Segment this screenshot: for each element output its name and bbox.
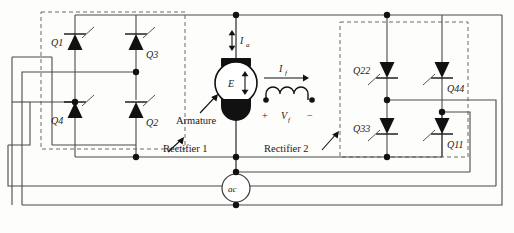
thyristor-q33-label: Q33 (353, 123, 370, 134)
field-plus-sign: + (262, 110, 268, 121)
armature-label: Armature (176, 115, 217, 126)
wire-left-loop-inner (8, 102, 30, 145)
field-terminal-right (309, 97, 315, 103)
node-rect2-top (384, 12, 390, 18)
ia-label-sub: a (246, 41, 250, 49)
commutator-brush-bottom (221, 99, 251, 121)
ia-arrow-head-up (229, 30, 236, 35)
thyristor-q33: Q33 (353, 118, 398, 141)
thyristor-q44-label: Q44 (447, 83, 464, 94)
thyristor-q3: Q3 (125, 27, 158, 60)
if-arrow-head (303, 75, 309, 82)
vf-label-sub: f (288, 116, 291, 124)
node-rect1-mid-right (133, 69, 139, 75)
field-winding-inductor (266, 87, 308, 100)
thyristor-q2-label: Q2 (146, 117, 158, 128)
circuit-diagram: E I a Armature I f + V f − ac (0, 0, 514, 233)
if-label-sub: f (285, 69, 288, 77)
ac-source-label: ac (228, 184, 237, 194)
thyristor-q11-label: Q11 (447, 139, 463, 150)
rectifier-1-boundary (41, 12, 185, 149)
schematic-canvas: E I a Armature I f + V f − ac (0, 0, 514, 233)
node-armature-bottom (233, 154, 239, 160)
rectifier-2-label: Rectifier 2 (264, 143, 309, 154)
thyristor-q2: Q2 (125, 95, 158, 128)
node-rect1-bottom-right (133, 154, 139, 160)
thyristor-q4-label: Q4 (51, 115, 63, 126)
thyristor-q4: Q4 (51, 95, 94, 126)
node-rect2-mid-left (384, 97, 390, 103)
thyristor-q44: Q44 (423, 62, 464, 94)
field-minus-sign: − (307, 110, 313, 121)
node-ac-bottom (233, 202, 239, 208)
ia-label: I (239, 35, 244, 46)
thyristor-q22-label: Q22 (353, 65, 370, 76)
node-ac-top (233, 169, 239, 175)
armature-machine-symbol (215, 62, 257, 104)
thyristor-q11: Q11 (423, 118, 463, 150)
thyristor-q1-label: Q1 (51, 37, 63, 48)
node-rect2-bottom (384, 154, 390, 160)
rectifier-1-label: Rectifier 1 (163, 143, 208, 154)
node-armature-top (233, 12, 239, 18)
if-label: I (278, 63, 283, 74)
thyristor-q3-label: Q3 (146, 49, 158, 60)
node-rect2-mid-right (439, 109, 445, 115)
emf-label: E (227, 78, 234, 89)
node-rect1-q4-anode (72, 99, 78, 105)
thyristor-q1: Q1 (51, 27, 94, 50)
ia-arrow-head-down (229, 46, 236, 51)
thyristor-q22: Q22 (353, 62, 398, 85)
wire-right-outer-far (236, 15, 502, 205)
